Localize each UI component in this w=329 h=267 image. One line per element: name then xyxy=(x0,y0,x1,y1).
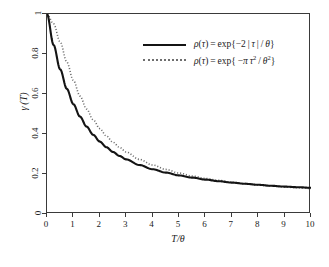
x-axis-label: T/θ xyxy=(46,233,310,244)
y-tick-mark xyxy=(42,93,46,94)
x-tick-mark xyxy=(46,213,47,217)
dotted-line-icon xyxy=(141,54,188,65)
y-tick-label: 0.2 xyxy=(0,168,40,178)
legend-label-exponential: ρ(τ) = exp{−2 | τ | / θ} xyxy=(188,39,274,50)
x-tick-label: 2 xyxy=(88,219,110,229)
y-tick-mark xyxy=(42,133,46,134)
x-tick-mark xyxy=(310,213,311,217)
x-tick-mark xyxy=(99,213,100,217)
y-axis-label: γ (T) xyxy=(18,72,29,132)
x-tick-mark xyxy=(125,213,126,217)
x-tick-mark xyxy=(178,213,179,217)
y-tick-mark xyxy=(42,53,46,54)
y-tick-label: 1 xyxy=(0,8,40,18)
x-tick-label: 10 xyxy=(299,219,321,229)
x-tick-mark xyxy=(72,213,73,217)
x-tick-label: 4 xyxy=(141,219,163,229)
x-tick-mark xyxy=(231,213,232,217)
x-tick-label: 7 xyxy=(220,219,242,229)
y-tick-mark xyxy=(42,173,46,174)
x-tick-label: 9 xyxy=(273,219,295,229)
x-tick-label: 1 xyxy=(61,219,83,229)
legend-entry-exponential: ρ(τ) = exp{−2 | τ | / θ} xyxy=(141,37,311,52)
y-tick-label: 0 xyxy=(0,208,40,218)
legend-label-gaussian: ρ(τ) = exp{ −π τ2 / θ2} xyxy=(188,52,275,67)
x-tick-label: 6 xyxy=(193,219,215,229)
solid-line-icon xyxy=(141,39,188,50)
y-tick-label: 0.8 xyxy=(0,48,40,58)
x-tick-mark xyxy=(284,213,285,217)
plot-area: ρ(τ) = exp{−2 | τ | / θ} ρ(τ) = exp{ −π … xyxy=(46,13,310,213)
x-tick-label: 5 xyxy=(167,219,189,229)
x-tick-mark xyxy=(257,213,258,217)
x-tick-label: 8 xyxy=(246,219,268,229)
x-tick-label: 0 xyxy=(35,219,57,229)
figure-container: ρ(τ) = exp{−2 | τ | / θ} ρ(τ) = exp{ −π … xyxy=(0,0,329,267)
chart-legend: ρ(τ) = exp{−2 | τ | / θ} ρ(τ) = exp{ −π … xyxy=(141,37,311,67)
x-tick-mark xyxy=(204,213,205,217)
legend-entry-gaussian: ρ(τ) = exp{ −π τ2 / θ2} xyxy=(141,52,311,67)
x-tick-mark xyxy=(152,213,153,217)
x-tick-label: 3 xyxy=(114,219,136,229)
